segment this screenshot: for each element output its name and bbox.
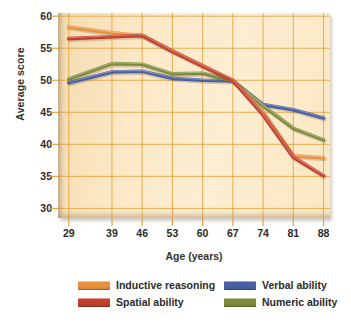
y-axis-tick-labels: 30354045505560 <box>22 0 52 322</box>
x-tick-label: 39 <box>97 228 127 239</box>
legend-color-swatch <box>78 298 110 307</box>
data-series-lines <box>69 26 325 177</box>
x-tick-label: 60 <box>188 228 218 239</box>
legend-label: Verbal ability <box>262 280 327 291</box>
x-tick-label: 74 <box>248 228 278 239</box>
x-axis-tick-labels: 293946536067748188 <box>58 228 330 244</box>
legend-color-swatch <box>224 281 256 290</box>
x-tick-label: 88 <box>309 228 339 239</box>
x-tick-label: 81 <box>278 228 308 239</box>
legend-item[interactable]: Numeric ability <box>224 296 337 309</box>
legend-label: Inductive reasoning <box>116 280 215 291</box>
legend-item[interactable]: Verbal ability <box>224 279 327 292</box>
x-tick-label: 67 <box>218 228 248 239</box>
chart-legend: Inductive reasoningSpatial abilityVerbal… <box>78 279 340 313</box>
y-axis-tick-marks <box>49 13 61 219</box>
legend-color-swatch <box>78 281 110 290</box>
legend-color-swatch <box>224 298 256 307</box>
series-line-highlight <box>69 35 324 175</box>
x-axis-title: Age (years) <box>58 250 330 262</box>
series-line <box>69 27 324 158</box>
x-tick-label: 53 <box>157 228 187 239</box>
plot-area <box>58 13 330 218</box>
x-tick-label: 29 <box>54 228 84 239</box>
legend-item[interactable]: Spatial ability <box>78 296 184 309</box>
legend-label: Spatial ability <box>116 297 184 308</box>
vertical-gridlines <box>69 13 324 218</box>
legend-label: Numeric ability <box>262 297 337 308</box>
series-line <box>69 35 324 175</box>
plot-svg <box>58 13 330 218</box>
series-line-highlight <box>69 26 324 157</box>
line-chart-figure: Average score 30354045505560 29394653606… <box>0 0 351 322</box>
legend-item[interactable]: Inductive reasoning <box>78 279 215 292</box>
x-tick-label: 46 <box>127 228 157 239</box>
